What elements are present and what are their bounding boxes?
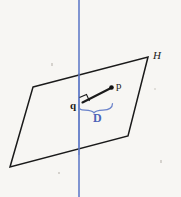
scan-speck [160,160,162,163]
point-p-label: p [116,80,122,91]
diagram-svg [0,0,181,197]
point-q-label: q [70,100,76,111]
plane-label: H [153,50,161,61]
distance-label: D [93,112,102,124]
scan-speck [58,172,60,174]
scan-speck [154,88,156,90]
figure-canvas: H p q D [0,0,181,197]
scan-speck [51,63,53,66]
point-p-dot [109,85,114,90]
